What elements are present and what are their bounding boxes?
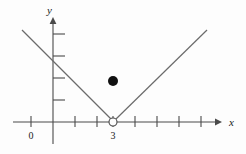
y-axis-label: y bbox=[47, 5, 52, 16]
curve-right-branch bbox=[116, 30, 207, 119]
graph-figure: y x 0 3 bbox=[0, 0, 246, 154]
filled-point-marker bbox=[108, 76, 118, 86]
x-axis-label: x bbox=[229, 117, 234, 128]
open-point-marker bbox=[109, 118, 117, 126]
y-axis-arrow-icon bbox=[50, 17, 57, 24]
x-axis-arrow-icon bbox=[215, 119, 222, 126]
x-tick-label-0: 0 bbox=[24, 131, 38, 141]
curve-left-branch bbox=[22, 30, 111, 119]
y-axis bbox=[50, 17, 57, 144]
absolute-value-curve bbox=[22, 30, 207, 119]
x-tick-label-3: 3 bbox=[106, 131, 120, 141]
